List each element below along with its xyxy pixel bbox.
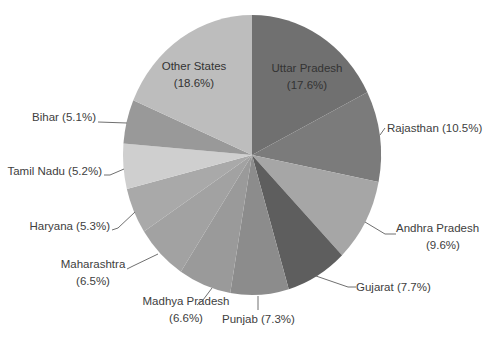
data-label-andhra-pradesh: Andhra Pradesh(9.6%) (396, 222, 479, 251)
data-label-bihar: Bihar (5.1%) (32, 111, 96, 123)
data-label-punjab: Punjab (7.3%) (222, 313, 295, 325)
data-label-madhya-pradesh: Madhya Pradesh(6.6%) (143, 295, 230, 324)
data-label-haryana: Haryana (5.3%) (29, 220, 110, 232)
leader-line (112, 212, 135, 230)
data-label-gujarat: Gujarat (7.7%) (356, 281, 431, 293)
leader-line (365, 222, 396, 234)
data-label-maharashtra: Maharashtra(6.5%) (61, 258, 126, 287)
leader-line (104, 169, 124, 175)
pie-slices (123, 15, 381, 295)
data-label-tamil-nadu: Tamil Nadu (5.2%) (7, 165, 102, 177)
pie-chart: Uttar Pradesh(17.6%)Rajasthan (10.5%)And… (0, 0, 492, 339)
data-label-rajasthan: Rajasthan (10.5%) (387, 122, 482, 134)
leader-line (380, 128, 385, 135)
leader-line (316, 276, 356, 287)
leader-line (98, 122, 127, 123)
leader-line (127, 254, 158, 269)
